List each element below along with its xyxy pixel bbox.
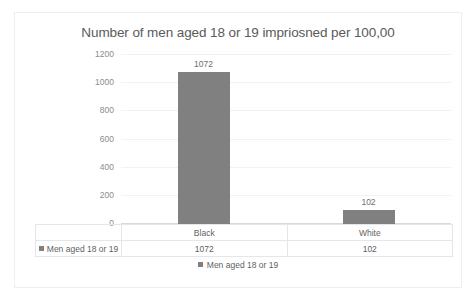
bar-white[interactable]	[343, 210, 395, 224]
bar-black[interactable]	[178, 72, 230, 224]
table-header-white: White	[287, 225, 453, 241]
legend-entry-label: Men aged 18 or 19	[207, 260, 278, 270]
gridline-600: 600	[121, 139, 451, 140]
chart-title: Number of men aged 18 or 19 impriosned p…	[15, 25, 461, 40]
bar-value-label-white: 102	[361, 197, 375, 207]
table-row: Men aged 18 or 19 1072 102	[36, 241, 453, 257]
chart-container: Number of men aged 18 or 19 impriosned p…	[14, 12, 462, 288]
series-color-swatch-icon	[39, 246, 44, 251]
gridline-800: 800	[121, 110, 451, 111]
y-tick-label-400: 400	[100, 162, 114, 172]
y-tick-label-600: 600	[100, 134, 114, 144]
table-series-label: Men aged 18 or 19	[47, 244, 118, 254]
table-series-label-cell: Men aged 18 or 19	[36, 241, 122, 257]
gridline-1200: 1200	[121, 54, 451, 55]
table-header-black: Black	[122, 225, 288, 241]
y-tick-label-800: 800	[100, 105, 114, 115]
gridline-200: 200	[121, 195, 451, 196]
table-corner-cell	[36, 225, 122, 241]
y-tick-label-200: 200	[100, 190, 114, 200]
legend-color-swatch-icon	[198, 262, 203, 267]
gridline-1000: 1000	[121, 82, 451, 83]
table-header-row: Black White	[36, 225, 453, 241]
table-cell-black: 1072	[122, 241, 288, 257]
table-cell-white: 102	[287, 241, 453, 257]
plot-area: 1200 1000 800 600 400 200 0 1072 102	[121, 54, 451, 224]
chart-legend: Men aged 18 or 19	[15, 260, 461, 270]
bar-value-label-black: 1072	[194, 59, 213, 69]
y-tick-label-1200: 1200	[95, 49, 114, 59]
gridline-400: 400	[121, 167, 451, 168]
data-table: Black White Men aged 18 or 19 1072 102	[35, 224, 453, 257]
y-tick-label-1000: 1000	[95, 77, 114, 87]
